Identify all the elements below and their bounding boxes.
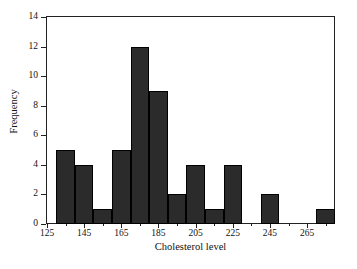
histogram-chart: 02468101214 125145165185205225245265 Cho… — [0, 0, 357, 269]
x-minor-tick-mark — [326, 224, 327, 226]
x-tick-label: 165 — [104, 228, 138, 238]
x-tick-label: 245 — [253, 228, 287, 238]
x-minor-tick-mark — [214, 224, 215, 226]
x-axis-title: Cholesterol level — [46, 241, 335, 252]
x-minor-tick-mark — [289, 224, 290, 226]
x-tick-label: 185 — [141, 228, 175, 238]
y-axis-title: Frequency — [8, 67, 19, 157]
x-minor-tick-mark — [251, 224, 252, 226]
x-minor-tick-mark — [66, 224, 67, 226]
x-tick-label: 225 — [216, 228, 250, 238]
x-minor-tick-mark — [140, 224, 141, 226]
x-tick-label: 125 — [30, 228, 64, 238]
x-minor-tick-mark — [177, 224, 178, 226]
x-axis: 125145165185205225245265 — [0, 0, 357, 269]
x-tick-label: 265 — [290, 228, 324, 238]
x-minor-tick-mark — [103, 224, 104, 226]
x-tick-label: 145 — [67, 228, 101, 238]
x-tick-label: 205 — [179, 228, 213, 238]
